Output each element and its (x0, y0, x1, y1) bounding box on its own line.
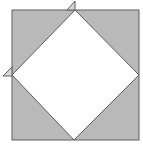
left-flap (3, 67, 12, 76)
top-flap (67, 1, 75, 10)
diagram-canvas (0, 0, 143, 144)
square-diamond-figure (0, 0, 143, 144)
